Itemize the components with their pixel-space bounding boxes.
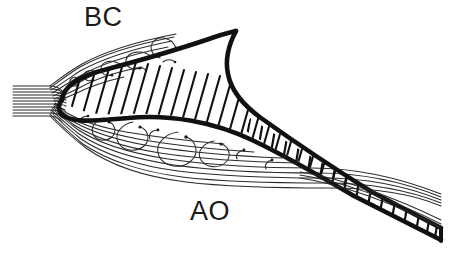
body-branch-outline xyxy=(227,31,441,228)
body-upper-outline xyxy=(62,31,236,100)
label-bc: BC xyxy=(84,4,123,31)
body-lower-outline xyxy=(62,115,441,240)
figure-canvas: BC AO xyxy=(0,0,450,255)
tail-underflow-streamlines xyxy=(300,172,441,228)
label-ao: AO xyxy=(190,198,230,225)
